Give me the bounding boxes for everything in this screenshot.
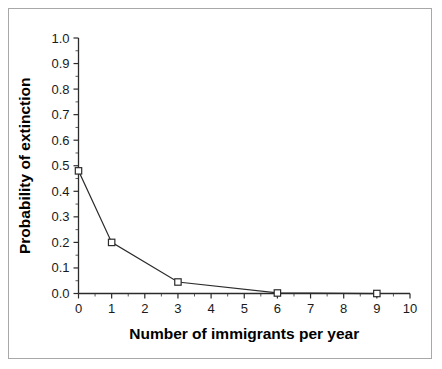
y-tick-label: 0.8 — [51, 82, 69, 97]
y-tick-label: 0.1 — [51, 260, 69, 275]
y-tick-label: 1.0 — [51, 31, 69, 46]
x-tick-label: 4 — [207, 301, 214, 316]
x-tick-label: 1 — [108, 301, 115, 316]
line-chart: 0.00.10.20.30.40.50.60.70.80.91.0 012345… — [0, 0, 442, 369]
x-tick-label: 7 — [307, 301, 314, 316]
x-tick-label: 0 — [75, 301, 82, 316]
y-tick-label: 0.6 — [51, 133, 69, 148]
data-point-marker — [75, 168, 81, 174]
x-tick-label: 3 — [174, 301, 181, 316]
x-tick-label: 5 — [241, 301, 248, 316]
x-axis-ticks — [79, 294, 411, 299]
x-tick-label: 8 — [340, 301, 347, 316]
y-tick-label: 0.5 — [51, 158, 69, 173]
x-tick-label: 9 — [373, 301, 380, 316]
y-tick-label: 0.2 — [51, 235, 69, 250]
y-tick-label: 0.4 — [51, 184, 69, 199]
data-point-marker — [374, 290, 380, 296]
data-point-marker — [108, 239, 114, 245]
data-series-line — [79, 171, 377, 294]
y-tick-label: 0.9 — [51, 56, 69, 71]
data-point-marker — [175, 279, 181, 285]
y-axis-tick-labels: 0.00.10.20.30.40.50.60.70.80.91.0 — [51, 31, 69, 302]
data-series-markers — [75, 168, 380, 297]
y-axis-title: Probability of extinction — [16, 77, 33, 254]
y-axis-ticks — [74, 38, 79, 294]
y-tick-label: 0.3 — [51, 209, 69, 224]
x-tick-label: 6 — [274, 301, 281, 316]
data-point-marker — [274, 290, 280, 296]
y-tick-label: 0.7 — [51, 107, 69, 122]
x-axis-title: Number of immigrants per year — [129, 325, 359, 342]
x-tick-label: 2 — [141, 301, 148, 316]
y-tick-label: 0.0 — [51, 286, 69, 301]
x-tick-label: 10 — [403, 301, 417, 316]
figure-container: 0.00.10.20.30.40.50.60.70.80.91.0 012345… — [0, 0, 442, 369]
x-axis-tick-labels: 012345678910 — [75, 301, 417, 316]
